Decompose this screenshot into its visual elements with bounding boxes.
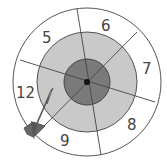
segment-label-7: 7 — [142, 60, 152, 78]
bullseye — [84, 79, 90, 85]
segment-label-12: 12 — [16, 84, 35, 102]
segment-label-6: 6 — [101, 17, 111, 35]
segment-label-9: 9 — [60, 132, 70, 150]
dartboard: 5 6 7 8 9 12 — [0, 0, 167, 164]
segment-label-5: 5 — [42, 29, 52, 47]
segment-label-8: 8 — [127, 116, 137, 134]
